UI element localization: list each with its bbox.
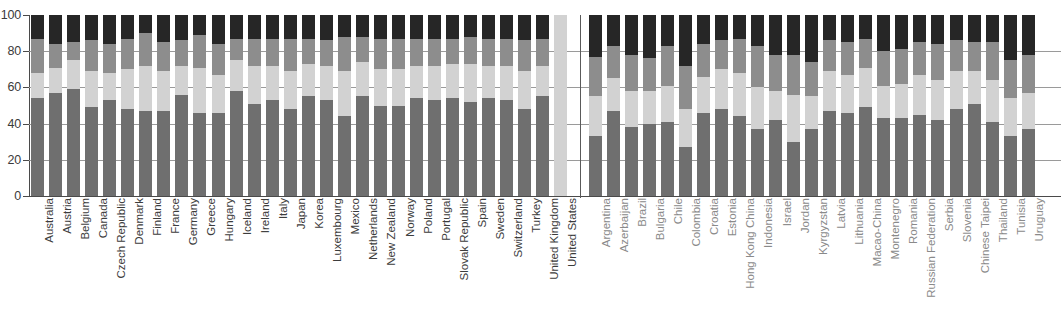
bar-segment	[1022, 93, 1035, 129]
bar-segment	[751, 46, 764, 88]
bar[interactable]	[284, 15, 297, 196]
bar[interactable]	[536, 15, 549, 196]
bar-segment	[643, 91, 656, 124]
bar[interactable]	[733, 15, 746, 196]
bar[interactable]	[356, 15, 369, 196]
bar-segment	[49, 44, 62, 68]
bar-segment	[230, 39, 243, 61]
bar[interactable]	[823, 15, 836, 196]
gridline	[29, 196, 1061, 197]
bar[interactable]	[302, 15, 315, 196]
bar[interactable]	[31, 15, 44, 196]
bar[interactable]	[877, 15, 890, 196]
category-label: Turkey	[530, 198, 543, 324]
bar-segment	[464, 15, 477, 37]
bar-segment	[103, 15, 116, 44]
y-axis-labels: 100806040200	[0, 0, 22, 324]
bar-segment	[787, 95, 800, 142]
bar[interactable]	[679, 15, 692, 196]
bar[interactable]	[805, 15, 818, 196]
bar[interactable]	[139, 15, 152, 196]
bar[interactable]	[49, 15, 62, 196]
bar[interactable]	[787, 15, 800, 196]
bar[interactable]	[1022, 15, 1035, 196]
bar[interactable]	[175, 15, 188, 196]
bar-segment	[320, 15, 333, 40]
bar[interactable]	[751, 15, 764, 196]
bar-segment	[625, 55, 638, 91]
bar-segment	[805, 129, 818, 196]
bar-segment	[139, 33, 152, 66]
y-axis-tick-label: 80	[0, 46, 21, 56]
bar[interactable]	[895, 15, 908, 196]
bar-segment	[715, 69, 728, 109]
bar[interactable]	[950, 15, 963, 196]
bar[interactable]	[913, 15, 926, 196]
bar[interactable]	[103, 15, 116, 196]
bar-segment	[410, 98, 423, 196]
bar[interactable]	[859, 15, 872, 196]
bar-segment	[464, 37, 477, 64]
bar[interactable]	[212, 15, 225, 196]
bar[interactable]	[607, 15, 620, 196]
category-label: Poland	[422, 198, 435, 324]
bar[interactable]	[121, 15, 134, 196]
category-label: United Kingdom	[548, 198, 561, 324]
bar-segment	[715, 40, 728, 69]
bar[interactable]	[320, 15, 333, 196]
bar-segment	[679, 147, 692, 196]
bar-segment	[931, 44, 944, 80]
bar[interactable]	[518, 15, 531, 196]
bar-segment	[697, 77, 710, 113]
bar[interactable]	[248, 15, 261, 196]
bar-segment	[859, 107, 872, 196]
bar[interactable]	[157, 15, 170, 196]
bar[interactable]	[482, 15, 495, 196]
bar-segment	[589, 15, 602, 57]
bar[interactable]	[625, 15, 638, 196]
bar[interactable]	[266, 15, 279, 196]
bar-segment	[284, 15, 297, 39]
bar-segment	[950, 109, 963, 196]
category-label: Latvia	[835, 198, 848, 324]
bar-segment	[248, 15, 261, 39]
bar-segment	[877, 86, 890, 119]
bar[interactable]	[841, 15, 854, 196]
bar[interactable]	[464, 15, 477, 196]
bar[interactable]	[1004, 15, 1017, 196]
bar[interactable]	[643, 15, 656, 196]
bar-segment	[31, 39, 44, 73]
bar-segment	[536, 66, 549, 97]
category-label: Mexico	[349, 198, 362, 324]
bar-segment	[284, 71, 297, 109]
bar[interactable]	[697, 15, 710, 196]
bar[interactable]	[769, 15, 782, 196]
bar[interactable]	[554, 15, 567, 196]
category-label: Iceland	[241, 198, 254, 324]
bar-segment	[697, 44, 710, 77]
bar[interactable]	[374, 15, 387, 196]
bar[interactable]	[500, 15, 513, 196]
bar[interactable]	[193, 15, 206, 196]
bar-segment	[302, 39, 315, 64]
bar[interactable]	[589, 15, 602, 196]
bar[interactable]	[661, 15, 674, 196]
bar[interactable]	[230, 15, 243, 196]
bar[interactable]	[968, 15, 981, 196]
bar-segment	[877, 51, 890, 85]
bar[interactable]	[410, 15, 423, 196]
bar-segment	[500, 39, 513, 66]
bar-segment	[338, 71, 351, 116]
bar[interactable]	[85, 15, 98, 196]
bar[interactable]	[338, 15, 351, 196]
bar[interactable]	[446, 15, 459, 196]
bar[interactable]	[67, 15, 80, 196]
bar-segment	[157, 111, 170, 196]
bar[interactable]	[428, 15, 441, 196]
category-label: Chinese Taipei	[979, 198, 992, 324]
bar[interactable]	[715, 15, 728, 196]
bar[interactable]	[931, 15, 944, 196]
bar[interactable]	[392, 15, 405, 196]
bar[interactable]	[986, 15, 999, 196]
category-label: Belgium	[79, 198, 92, 324]
